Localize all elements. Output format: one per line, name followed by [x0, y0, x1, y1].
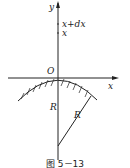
- surface-hatching: [21, 79, 88, 99]
- radius-label-slanted: R: [73, 110, 81, 120]
- mark-x: [57, 32, 59, 34]
- figure-canvas: y x+dx x O x R R 图 5－13: [0, 0, 130, 168]
- x-axis-arrow-icon: [112, 76, 119, 80]
- figure-caption: 图 5－13: [46, 159, 84, 168]
- y-axis-label: y: [48, 2, 55, 12]
- mark-label-x: x: [62, 28, 67, 38]
- y-axis-arrow-icon: [56, 1, 60, 8]
- radius-label-vertical: R: [49, 102, 57, 112]
- x-axis-label: x: [108, 81, 113, 91]
- origin-label: O: [47, 66, 55, 76]
- radius-line: [58, 96, 91, 146]
- mark-x-plus-dx: [57, 23, 59, 25]
